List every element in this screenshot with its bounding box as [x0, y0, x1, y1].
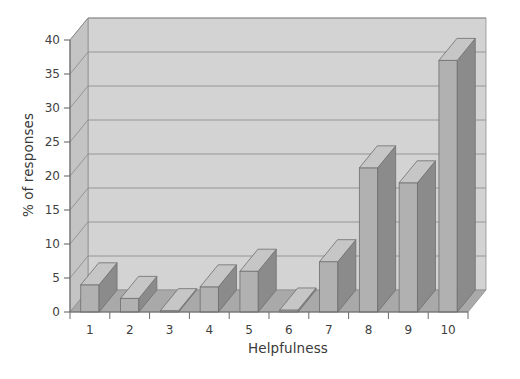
- x-axis-tick-label: 5: [245, 323, 253, 337]
- x-axis-tick-label: 2: [126, 323, 134, 337]
- bar-front-face: [439, 60, 457, 312]
- y-axis-tick-label: 40: [45, 33, 60, 47]
- bar-8: [359, 146, 395, 312]
- bar-front-face: [320, 262, 338, 312]
- bar-front-face: [240, 271, 258, 312]
- x-axis-tick-label: 10: [440, 323, 455, 337]
- x-axis-tick-label: 4: [205, 323, 213, 337]
- bar-front-face: [121, 298, 139, 312]
- y-axis-tick-label: 15: [45, 203, 60, 217]
- y-axis-tick-label: 5: [52, 271, 60, 285]
- y-axis-tick-label: 0: [52, 305, 60, 319]
- x-axis-tick-label: 7: [325, 323, 333, 337]
- y-axis-tick-label: 30: [45, 101, 60, 115]
- bar-side-face: [378, 146, 396, 312]
- x-axis-tick-label: 8: [365, 323, 373, 337]
- bar-chart: % of responses Helpfulness 0510152025303…: [0, 0, 520, 379]
- plot-area: 051015202530354012345678910: [0, 0, 520, 379]
- x-axis-tick-label: 1: [86, 323, 94, 337]
- x-axis-tick-label: 3: [166, 323, 174, 337]
- bar-front-face: [81, 285, 99, 312]
- x-axis-tick-label: 6: [285, 323, 293, 337]
- bar-side-face: [457, 38, 475, 312]
- bar-front-face: [359, 168, 377, 312]
- y-axis-tick-label: 35: [45, 67, 60, 81]
- bar-9: [399, 161, 435, 312]
- bar-front-face: [200, 287, 218, 312]
- bar-10: [439, 38, 475, 312]
- bar-side-face: [417, 161, 435, 312]
- x-axis-tick-label: 9: [404, 323, 412, 337]
- y-axis-tick-label: 10: [45, 237, 60, 251]
- y-axis-tick-label: 25: [45, 135, 60, 149]
- y-axis-tick-label: 20: [45, 169, 60, 183]
- bar-front-face: [399, 183, 417, 312]
